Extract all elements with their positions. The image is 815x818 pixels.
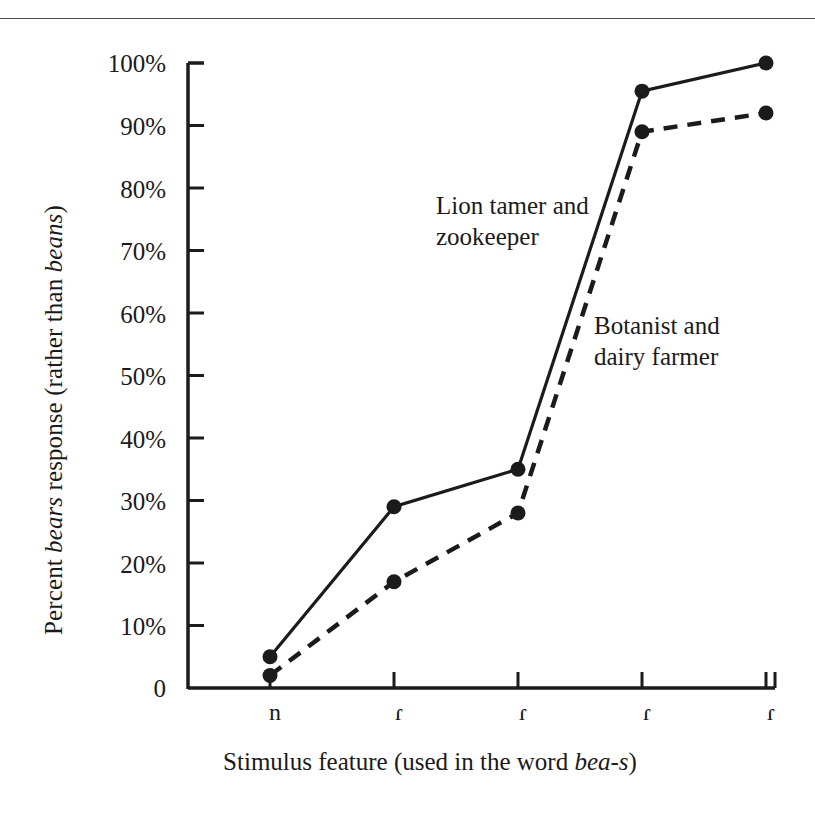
data-point-s1-x1 [263, 668, 278, 683]
plot-area [0, 0, 815, 818]
data-point-s0-x2 [387, 499, 402, 514]
x-tick-marks [270, 672, 775, 688]
series-line-0 [270, 63, 766, 657]
data-point-s1-x3 [511, 506, 526, 521]
axis-lines [188, 63, 775, 689]
series-line-1 [270, 113, 766, 676]
series-dashed [263, 106, 774, 684]
data-point-s1-x2 [387, 574, 402, 589]
data-point-s1-x5 [759, 106, 774, 121]
data-point-s0-x3 [511, 462, 526, 477]
data-point-s0-x5 [759, 56, 774, 71]
series-solid [263, 56, 774, 665]
y-tick-marks [188, 63, 204, 626]
data-point-s1-x4 [635, 124, 650, 139]
data-point-s0-x1 [263, 649, 278, 664]
series-layer [263, 56, 774, 684]
chart-figure: Percent bears response (rather than bean… [0, 0, 815, 818]
data-point-s0-x4 [635, 84, 650, 99]
